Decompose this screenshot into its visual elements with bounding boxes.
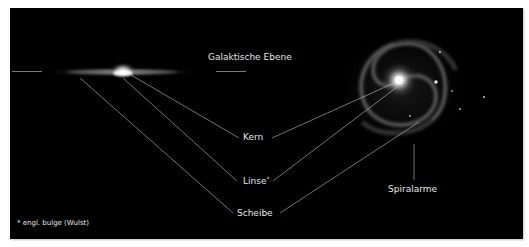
galaxy-illustration [10, 8, 523, 239]
bulge-label-text: Linse [243, 176, 266, 186]
bulge-label: Linse* [243, 176, 269, 186]
leader-core-left [131, 75, 239, 138]
leader-bulge-left [123, 78, 237, 181]
galaxy-diagram-panel: Galaktische Ebene Kern Linse* Scheibe Sp… [10, 8, 523, 239]
spiral-arms-label: Spiralarme [388, 185, 437, 194]
galactic-plane-label: Galaktische Ebene [208, 53, 292, 62]
core-label: Kern [243, 133, 263, 142]
leader-disk-right [280, 122, 419, 213]
disk-label: Scheibe [237, 209, 273, 218]
face-on-spiral-galaxy [340, 36, 485, 140]
bulge-footnote-marker: * [266, 175, 269, 182]
leader-disk-left [80, 78, 233, 213]
edge-on-galaxy [40, 63, 204, 77]
footnote: * engl. bulge (Wulst) [17, 220, 89, 227]
